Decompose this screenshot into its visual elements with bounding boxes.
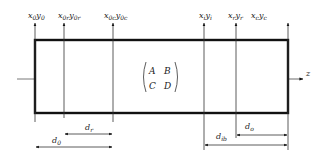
label-xr-yr: xryr <box>228 11 244 21</box>
optical-system-diagram: z A B C D x0y0 x0ry0r x0cy0c xiyi xryr x… <box>0 0 319 151</box>
input-plane-lines <box>35 23 113 122</box>
matrix-a: A <box>148 66 156 76</box>
dimension-do: do <box>237 122 287 135</box>
dimension-dr: dr <box>65 123 112 134</box>
label-xi-yi: xiyi <box>199 11 212 21</box>
axis-label-z: z <box>305 69 311 78</box>
svg-text:do: do <box>245 122 254 132</box>
label-x0r-y0r: x0ry0r <box>58 11 82 21</box>
matrix-d: D <box>163 81 171 91</box>
dimension-d0: d0 <box>36 136 112 147</box>
svg-text:dib: dib <box>216 132 227 142</box>
svg-text:d0: d0 <box>52 136 61 146</box>
system-box <box>35 40 288 113</box>
label-xc-yc: xcyc <box>251 11 267 21</box>
dimension-dib: dib <box>205 132 287 145</box>
matrix-c: C <box>149 81 156 91</box>
label-x0c-y0c: x0cy0c <box>104 11 128 21</box>
label-x0y0: x0y0 <box>28 11 45 21</box>
matrix-b: B <box>163 66 171 76</box>
svg-text:dr: dr <box>85 123 94 133</box>
abcd-matrix: A B C D <box>144 62 178 92</box>
